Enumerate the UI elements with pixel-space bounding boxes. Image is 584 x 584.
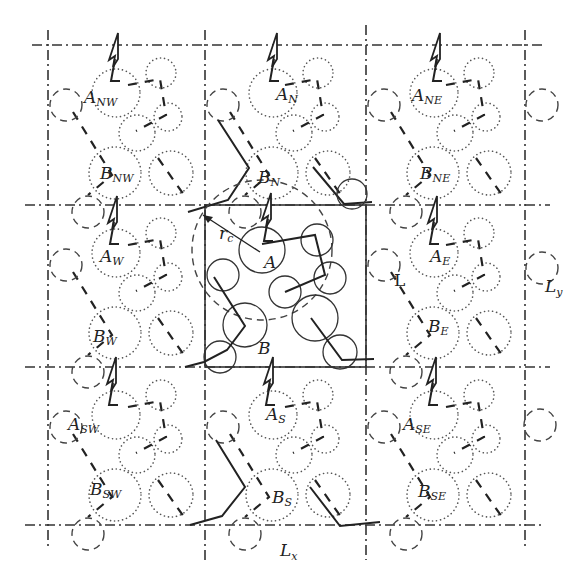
label-b-w: BW (92, 326, 119, 348)
bond-fragment-s-right (310, 487, 380, 526)
image-SE (368, 357, 511, 550)
image-W (50, 196, 193, 388)
atom-b4 (292, 295, 338, 341)
central-cell (205, 205, 366, 367)
label-b-nw: BNW (99, 163, 135, 185)
label-a-s: AS (264, 404, 286, 426)
periodic-boundary-diagram: ANW BNW AN BN ANE BNE AW BW AE BE ASW BS… (0, 0, 584, 584)
bond-fragment-n-right (313, 167, 372, 204)
central-molecules (185, 180, 374, 373)
edge-image-circle (524, 409, 556, 441)
label-a-sw: ASW (66, 414, 101, 436)
label-a-central: A (262, 252, 276, 272)
label-b-se: BSE (417, 481, 446, 503)
image-E (368, 196, 511, 388)
label-b-s: BS (271, 487, 293, 509)
label-a-w: AW (98, 246, 125, 268)
label-a-ne: ANE (410, 85, 442, 107)
atom-a1 (239, 227, 285, 273)
label-cell-l: L (394, 270, 405, 290)
label-ly: Ly (544, 276, 563, 299)
label-a-se: ASE (401, 414, 431, 436)
image-NW (50, 33, 193, 228)
bond-chain-b-right (311, 318, 374, 360)
label-cutoff-rc: rc (219, 223, 233, 245)
image-S (207, 357, 350, 550)
orientation-arrow-a (262, 193, 273, 241)
cutoff-circle (192, 180, 332, 320)
label-b-ne: BNE (419, 163, 450, 185)
label-b-sw: BSW (89, 479, 123, 501)
label-b-e: BE (427, 316, 449, 338)
label-a-e: AE (428, 246, 450, 268)
image-NE (368, 33, 511, 228)
edge-image-circle (526, 89, 558, 121)
label-a-nw: ANW (82, 87, 119, 109)
label-b-n: BN (257, 167, 281, 189)
atom-b1 (207, 259, 239, 291)
image-SW (50, 357, 193, 550)
label-a-n: AN (274, 84, 298, 106)
label-lx: Lx (279, 540, 298, 563)
bond-fragment-s-left (190, 440, 245, 525)
label-b-central: B (257, 338, 271, 358)
bond-fragment-n-left (188, 120, 249, 212)
